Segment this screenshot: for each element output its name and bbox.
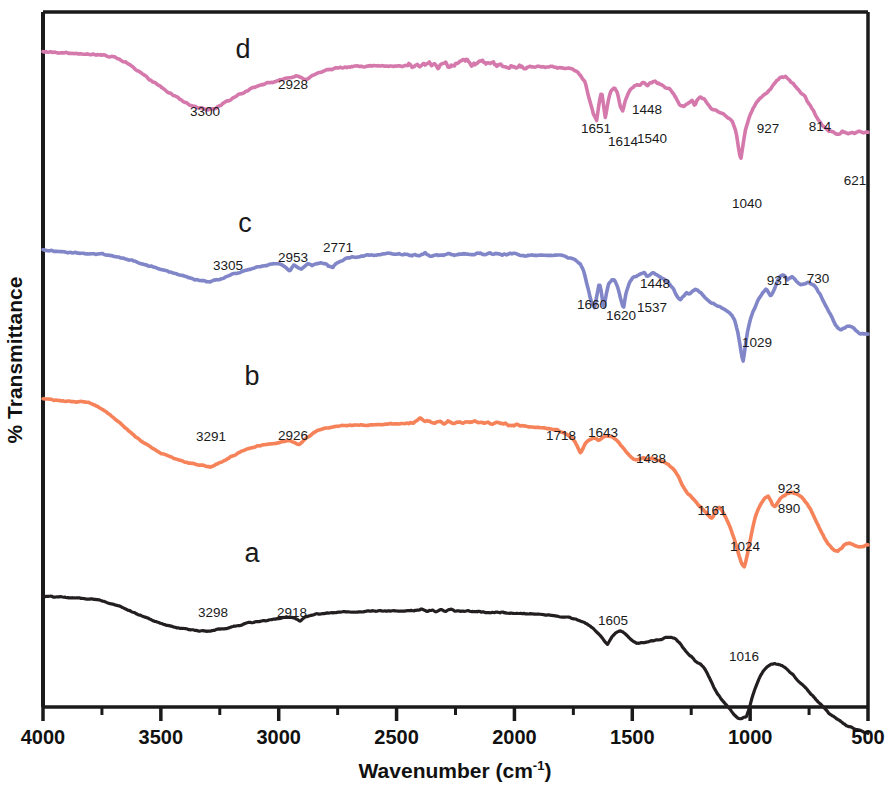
- ftir-plot-svg: 4000350030002500200015001000500 32982918…: [0, 0, 889, 785]
- peak-label-d-927: 927: [757, 121, 780, 136]
- peak-label-d-1651: 1651: [581, 121, 611, 136]
- peak-label-c-931: 931: [767, 273, 790, 288]
- peak-label-d-3300: 3300: [190, 104, 220, 119]
- x-axis-title-base: Wavenumber (cm: [359, 759, 533, 782]
- series-letter-b: b: [244, 361, 259, 391]
- peak-label-d-621: 621: [844, 173, 867, 188]
- peak-label-d-2928: 2928: [278, 77, 308, 92]
- x-tick-label: 500: [851, 726, 884, 748]
- peak-label-b-3291: 3291: [196, 429, 226, 444]
- peak-label-c-2771: 2771: [323, 240, 353, 255]
- x-tick-label: 3000: [256, 726, 301, 748]
- series-letter-c: c: [238, 208, 252, 238]
- peak-label-d-1448: 1448: [632, 102, 662, 117]
- x-axis-title: Wavenumber (cm-1): [359, 758, 552, 782]
- peak-label-a-2918: 2918: [277, 605, 307, 620]
- x-axis-title-close: ): [544, 759, 551, 782]
- peak-label-c-1448: 1448: [640, 276, 670, 291]
- ftir-spectra-figure: 4000350030002500200015001000500 32982918…: [0, 0, 889, 785]
- peak-label-b-2926: 2926: [278, 428, 308, 443]
- peak-label-d-1040: 1040: [732, 196, 762, 211]
- peak-label-b-923: 923: [778, 481, 801, 496]
- series-letter-a: a: [244, 538, 260, 568]
- y-axis-title: % Transmittance: [3, 277, 26, 444]
- figure-background: [0, 0, 889, 785]
- peak-label-b-1643: 1643: [588, 425, 618, 440]
- peak-label-c-1029: 1029: [742, 335, 772, 350]
- x-tick-label: 3500: [139, 726, 184, 748]
- peak-label-c-730: 730: [807, 271, 830, 286]
- x-tick-label: 1000: [728, 726, 773, 748]
- peak-label-c-1660: 1660: [577, 297, 607, 312]
- x-tick-label: 2000: [492, 726, 537, 748]
- peak-label-b-1024: 1024: [730, 539, 761, 554]
- peak-label-b-1438: 1438: [636, 451, 666, 466]
- x-tick-label: 2500: [374, 726, 419, 748]
- peak-label-c-1620: 1620: [606, 308, 636, 323]
- peak-label-c-1537: 1537: [637, 300, 667, 315]
- peak-label-b-1718: 1718: [546, 428, 576, 443]
- x-axis-title-superscript: -1: [533, 758, 545, 773]
- peak-label-d-814: 814: [809, 119, 832, 134]
- peak-label-d-1614: 1614: [608, 134, 639, 149]
- peak-label-b-1161: 1161: [697, 503, 726, 518]
- peak-label-c-2953: 2953: [278, 250, 308, 265]
- x-tick-label: 1500: [610, 726, 655, 748]
- peak-label-c-3305: 3305: [213, 258, 243, 273]
- x-tick-label: 4000: [21, 726, 66, 748]
- peak-label-b-890: 890: [778, 501, 801, 516]
- peak-label-a-3298: 3298: [198, 605, 228, 620]
- peak-label-d-1540: 1540: [637, 131, 667, 146]
- series-letter-d: d: [235, 34, 250, 64]
- peak-label-a-1016: 1016: [729, 649, 759, 664]
- peak-label-a-1605: 1605: [598, 613, 628, 628]
